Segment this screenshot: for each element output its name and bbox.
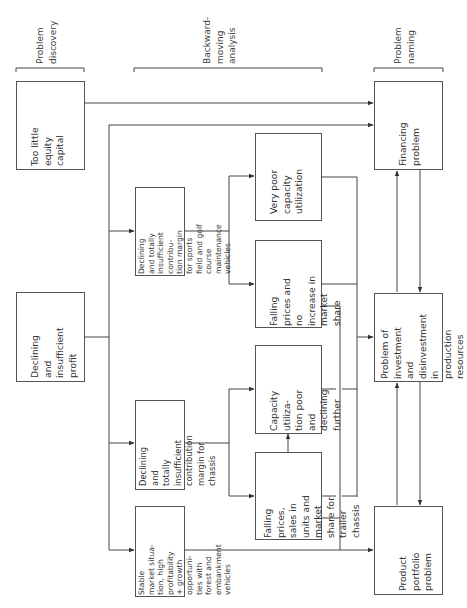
box-text: Falling prices and no increase in market…	[268, 273, 343, 326]
header-backward-moving-analysis: Backward- moving analysis	[201, 17, 239, 64]
box-text: Declining and totally insufficient contr…	[137, 224, 233, 274]
box-chassis-contribution-margin: Declining and totally insufficient contr…	[135, 400, 185, 490]
header-problem-naming: Problem naming	[392, 27, 417, 64]
box-falling-prices-trailer-chassis: Falling prices, sales in units and marke…	[255, 452, 322, 540]
box-text: Financing problem	[397, 122, 422, 166]
box-text: Declining and totally insufficient contr…	[138, 435, 219, 486]
box-text: Problem of investment and disinvestment …	[379, 314, 467, 379]
box-very-poor-capacity-utilization: Very poor capacity utilization	[255, 133, 322, 221]
box-investment-disinvestment-problem: Problem of investment and disinvestment …	[374, 293, 443, 382]
header-problem-discovery: Problem discovery	[34, 21, 59, 64]
box-text: Capacity utiliza- tion poor and declinin…	[268, 378, 343, 431]
box-text: Falling prices, sales in units and marke…	[262, 479, 362, 538]
box-stable-market-forest-vehicles: Stable market situa- tion, high profitab…	[135, 506, 185, 597]
box-falling-prices-no-increase: Falling prices and no increase in market…	[255, 240, 322, 328]
box-text: Too little equity capital	[29, 111, 67, 166]
box-text: Declining and insufficient profit	[29, 323, 79, 378]
box-sports-field-golf-vehicles: Declining and totally insufficient contr…	[135, 187, 185, 276]
box-text: Product portfolio problem	[397, 546, 435, 591]
box-financing-problem: Financing problem	[374, 81, 443, 170]
box-text: Stable market situa- tion, high profitab…	[137, 544, 233, 595]
box-declining-insufficient-profit: Declining and insufficient profit	[16, 292, 85, 382]
box-text: Very poor capacity utilization	[268, 169, 306, 214]
box-product-portfolio-problem: Product portfolio problem	[374, 506, 443, 595]
box-too-little-equity-capital: Too little equity capital	[16, 81, 85, 170]
box-capacity-utilization-declining: Capacity utiliza- tion poor and declinin…	[255, 345, 322, 434]
